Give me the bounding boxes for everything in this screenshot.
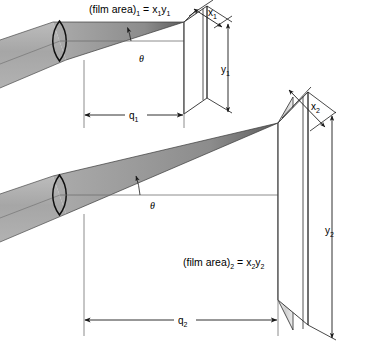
plate-2-face	[278, 92, 308, 325]
optics-film-area-diagram: θ x1 y1	[0, 0, 367, 350]
theta-label-2: θ	[150, 200, 155, 211]
film-plate-2	[278, 92, 308, 330]
film-plate-1	[184, 6, 207, 114]
plate-1-face	[184, 6, 207, 114]
theta-label-1: θ	[139, 53, 144, 64]
